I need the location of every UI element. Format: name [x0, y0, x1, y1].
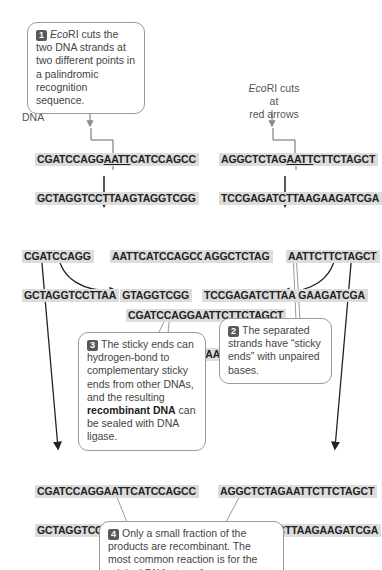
seq-top: AATTCTTCTAGCT [286, 250, 380, 263]
seq-top: AGGCTCTAGAATTCTTCTAGCT [218, 485, 377, 498]
callout-step-2: 2The separated strands have “sticky ends… [219, 318, 332, 384]
recognition-site: AATT [287, 153, 314, 165]
recognition-site: AATT [104, 153, 131, 165]
step-4-text: Only a small fraction of the products ar… [108, 527, 257, 570]
callout-step-1: 1EcoRI cuts the two DNA strands at two d… [27, 22, 145, 114]
seq-bottom: GCTAGGTCCTTAA [22, 289, 119, 302]
fragment-left-a: CGATCCAGG GCTAGGTCCTTAA [22, 224, 119, 315]
fragment-right-b: AATTCTTCTAGCT GAAGATCGA [286, 224, 368, 315]
seq-top: CGATCCAGG [22, 250, 94, 263]
enzyme-name-italic: Eco [50, 28, 68, 40]
step-3-bold-term: recombinant DNA [87, 404, 176, 416]
seq-top: AATTCATCCAGCC [110, 250, 207, 263]
seq-top-c: CTTCTAGCT [313, 153, 375, 165]
seq-top-c: CATCCAGCC [130, 153, 196, 165]
ecori-note-italic: Eco [249, 82, 267, 94]
step-3-badge: 3 [87, 340, 98, 351]
step-3-text-before: The sticky ends can hydrogen-bond to com… [87, 338, 194, 403]
step-1-badge: 1 [36, 30, 47, 41]
seq-bottom: GAAGATCGA [296, 289, 368, 302]
dna-original-left: CGATCCAGGAATTCATCCAGCC GCTAGGTCCTTAAGTAG… [35, 127, 199, 218]
callout-step-4: 4Only a small fraction of the products a… [99, 521, 284, 570]
step-2-text: The separated strands have “sticky ends”… [228, 324, 321, 376]
callout-step-3: 3The sticky ends can hydrogen-bond to co… [78, 332, 206, 451]
ecori-cut-note: EcoRI cuts at red arrows [243, 82, 305, 121]
seq-top: CGATCCAGGAATTCATCCAGCC [35, 485, 199, 498]
enzyme-name-suffix: RI [68, 28, 79, 40]
seq-top-a: CGATCCAGG [37, 153, 104, 165]
ecori-note-rest: RI cuts at [267, 82, 300, 107]
ecori-note-line2: red arrows [243, 108, 305, 121]
seq-bottom: TCCGAGATCTTAAGAAGATCGA [219, 192, 382, 205]
step-4-badge: 4 [108, 529, 119, 540]
seq-top-a: AGGCTCTAG [221, 153, 287, 165]
dna-original-right: AGGCTCTAGAATTCTTCTAGCT TCCGAGATCTTAAGAAG… [219, 127, 382, 218]
seq-bottom: GCTAGGTCCTTAAGTAGGTCGG [35, 192, 199, 205]
seq-top: AGGCTCTAG [202, 250, 273, 263]
step-2-badge: 2 [228, 326, 239, 337]
